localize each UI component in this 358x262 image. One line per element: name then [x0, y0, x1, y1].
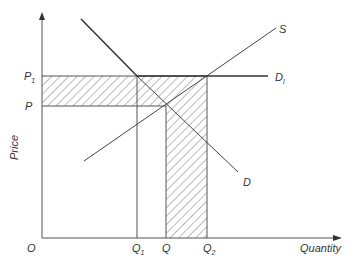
q2-label: Q2	[203, 242, 216, 256]
p-label: P	[25, 100, 33, 112]
shaded-price-band	[42, 76, 207, 106]
origin-label: O	[27, 242, 36, 254]
demand-label: D	[243, 176, 251, 188]
supply-demand-diagram: S Dl D P1 P Price O Q1 Q Q2 Quantity	[0, 0, 358, 262]
y-axis-arrow-icon	[39, 12, 45, 20]
q1-label: Q1	[132, 242, 145, 256]
demand-1-label: Dl	[275, 71, 285, 85]
y-axis-label: Price	[8, 135, 20, 160]
x-axis-label: Quantity	[300, 242, 342, 254]
shaded-quantity-band	[166, 106, 207, 238]
q-label: Q	[162, 242, 171, 254]
p1-label: P1	[24, 70, 35, 84]
x-axis-arrow-icon	[333, 235, 342, 241]
supply-label: S	[279, 23, 287, 35]
demand-curve	[81, 19, 137, 76]
